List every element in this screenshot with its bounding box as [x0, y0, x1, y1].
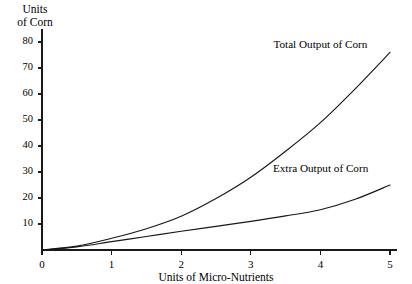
- y-axis-tick-label: 40: [9, 139, 33, 151]
- y-axis-tick-label: 80: [9, 35, 33, 47]
- y-axis-tick-label: 60: [9, 87, 33, 99]
- series-label: Extra Output of Corn: [273, 162, 368, 175]
- y-axis-tick-marks: [38, 42, 42, 224]
- series-line: [42, 185, 390, 250]
- y-axis-tick-label: 20: [9, 191, 33, 203]
- y-axis-tick-label: 30: [9, 165, 33, 177]
- y-axis-tick-label: 70: [9, 61, 33, 73]
- x-axis-tick-label: 3: [241, 258, 261, 270]
- y-axis-title-line2: of Corn: [4, 16, 66, 29]
- y-axis-title: Units of Corn: [4, 3, 66, 29]
- series-line: [42, 52, 390, 250]
- x-axis-title: Units of Micro-Nutrients: [116, 271, 316, 284]
- series-label: Total Output of Corn: [273, 38, 367, 51]
- series-lines-group: [42, 52, 390, 250]
- axes-group: [38, 29, 397, 255]
- chart-figure: Units of Corn Units of Micro-Nutrients 1…: [0, 0, 412, 284]
- x-axis-tick-label: 2: [171, 258, 191, 270]
- x-axis-tick-label: 1: [102, 258, 122, 270]
- x-axis-tick-label: 5: [380, 258, 400, 270]
- y-axis-tick-label: 10: [9, 217, 33, 229]
- x-axis-tick-marks: [42, 250, 390, 255]
- y-axis-title-line1: Units: [4, 3, 66, 16]
- x-axis-tick-label: 0: [32, 258, 52, 270]
- y-axis-tick-label: 50: [9, 113, 33, 125]
- x-axis-tick-label: 4: [310, 258, 330, 270]
